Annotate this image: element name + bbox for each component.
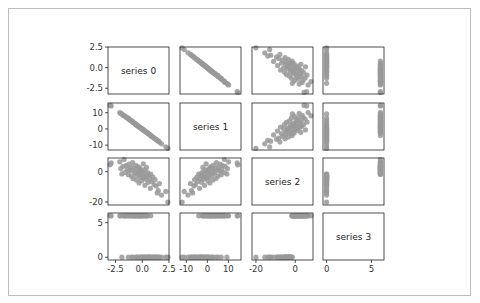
panel-frame [252, 213, 313, 260]
data-point [298, 62, 303, 67]
data-point [298, 130, 303, 135]
data-point [303, 127, 308, 132]
data-point [271, 132, 276, 137]
panel-frame [323, 158, 384, 205]
data-point [283, 136, 288, 141]
scatter-matrix: series 0series 1series 2series 3-2.50.02… [0, 0, 480, 303]
data-point [277, 139, 282, 144]
data-point [271, 59, 276, 64]
data-point [109, 103, 114, 108]
panel-frame [108, 213, 169, 260]
y-tick-label: -2.5 [86, 83, 103, 93]
y-tick-label: -20 [89, 197, 103, 207]
data-point [200, 165, 205, 170]
x-tick-label: 0 [324, 264, 329, 274]
data-point [303, 64, 308, 69]
panel-frame [323, 103, 384, 150]
y-tick-label: 5 [98, 218, 103, 228]
data-point [159, 141, 164, 146]
panel-frame [180, 213, 241, 260]
data-point [268, 53, 273, 58]
data-point [283, 255, 288, 260]
data-point [224, 255, 229, 260]
y-tick-label: 0 [98, 167, 103, 177]
data-point [277, 255, 282, 260]
data-point [378, 165, 383, 170]
diagonal-label: series 1 [193, 122, 228, 132]
x-tick-label: 10 [223, 264, 234, 274]
data-point [235, 89, 240, 94]
diagonal-label: series 2 [265, 177, 300, 187]
x-tick-label: 0 [205, 264, 210, 274]
x-tick-label: -2.5 [107, 264, 124, 274]
diagonal-label: series 3 [336, 232, 371, 242]
y-tick-label: 0.0 [89, 63, 103, 73]
data-point [253, 255, 258, 260]
y-tick-label: -10 [89, 140, 103, 150]
data-point [182, 189, 187, 194]
data-point [378, 89, 383, 94]
data-point [267, 144, 272, 149]
data-point [148, 213, 153, 218]
data-point [324, 181, 329, 186]
panel-frame [323, 47, 384, 94]
data-point [163, 189, 168, 194]
data-point [324, 189, 329, 194]
data-point [298, 213, 303, 218]
data-point [165, 255, 170, 260]
y-tick-label: 2.5 [89, 42, 103, 52]
data-point [197, 186, 202, 191]
data-point [153, 177, 158, 182]
data-point [303, 213, 308, 218]
data-point [267, 47, 272, 52]
data-point [304, 103, 309, 108]
data-point [262, 141, 267, 146]
x-tick-label: 0.0 [135, 264, 149, 274]
data-point [378, 58, 383, 63]
data-point [267, 255, 272, 260]
data-point [188, 181, 193, 186]
y-tick-label: 10 [92, 108, 103, 118]
x-tick-label: -20 [249, 264, 263, 274]
data-point [148, 186, 153, 191]
data-point [324, 81, 329, 86]
data-point [262, 255, 267, 260]
data-point [235, 160, 240, 165]
diagonal-label: series 0 [121, 66, 157, 76]
data-point [157, 181, 162, 186]
data-point [196, 213, 201, 218]
data-point [156, 188, 161, 193]
data-point [324, 45, 329, 50]
data-point [185, 193, 190, 198]
data-point [253, 45, 258, 50]
x-tick-label: 2.5 [162, 264, 176, 274]
x-tick-label: 5 [369, 264, 374, 274]
data-point [109, 213, 114, 218]
data-point [119, 255, 124, 260]
data-point [378, 133, 383, 138]
data-point [268, 139, 273, 144]
data-point [378, 172, 383, 177]
x-tick-label: -10 [179, 264, 193, 274]
data-point [324, 199, 329, 204]
data-point [144, 165, 149, 170]
data-point [378, 103, 383, 108]
x-tick-label: 0 [293, 264, 298, 274]
y-tick-label: 0 [98, 124, 103, 134]
data-point [109, 160, 114, 165]
data-point [277, 52, 282, 57]
y-tick-label: 0 [98, 252, 103, 262]
data-point [192, 177, 197, 182]
data-point [304, 89, 309, 94]
data-point [165, 199, 170, 204]
data-point [189, 188, 194, 193]
data-point [290, 213, 295, 218]
data-point [159, 193, 164, 198]
data-point [262, 50, 267, 55]
data-point [235, 213, 240, 218]
data-point [283, 55, 288, 60]
